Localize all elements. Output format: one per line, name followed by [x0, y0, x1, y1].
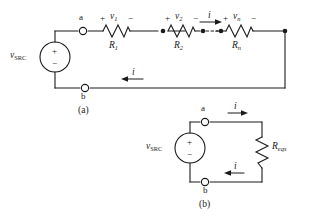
terminal-label-a-circuit-b: a	[201, 104, 205, 113]
caption-b: (b)	[199, 200, 210, 210]
current-label-b-bottom: i	[234, 162, 237, 172]
source-b-plus: +	[187, 138, 192, 147]
node-dot-ellipsis-left	[201, 29, 206, 34]
source-b-minus: −	[187, 150, 192, 159]
current-label-b-top: i	[234, 102, 237, 112]
current-arrow-b-top	[228, 110, 248, 116]
circuit-figure: vSRC + − a b + v1 − R1 + v2 − R2 + vn − …	[0, 0, 309, 223]
terminal-label-b-bottom: b	[81, 92, 86, 101]
current-arrow-a-top	[200, 19, 222, 25]
resistor-r1-symbol	[103, 25, 130, 37]
terminal-a-circuit-a	[79, 27, 86, 34]
terminal-label-a-top: a	[79, 13, 83, 22]
v2-label: v2	[175, 12, 182, 22]
rn-label: Rn	[232, 41, 241, 51]
source-a-plus: +	[52, 47, 57, 56]
vn-minus: −	[251, 14, 256, 23]
source-label-a: vSRC	[10, 51, 26, 61]
wire-a-right-bottom	[55, 31, 285, 88]
current-label-a-top: i	[208, 11, 211, 21]
v1-plus: +	[100, 14, 105, 23]
source-a-minus: −	[52, 59, 57, 68]
terminal-label-b-circuit-b: b	[203, 186, 208, 195]
vn-plus: +	[223, 14, 228, 23]
v2-plus: +	[165, 14, 170, 23]
node-dot-top-right-a	[283, 29, 288, 34]
r2-label: R2	[174, 41, 183, 51]
v1-minus: −	[128, 14, 133, 23]
source-label-b: vSRC	[146, 142, 162, 152]
circuit-svg	[0, 0, 309, 223]
current-label-a-bottom: i	[132, 68, 135, 78]
node-dot-ellipsis-right	[219, 29, 224, 34]
caption-a: (a)	[78, 106, 89, 116]
resistor-rn-symbol	[226, 25, 253, 37]
v1-label: v1	[110, 12, 117, 22]
r1-label: R1	[109, 41, 118, 51]
vn-label: vn	[233, 12, 240, 22]
reqs-label: Reqs	[272, 142, 286, 152]
resistor-reqs-symbol	[256, 137, 268, 168]
terminal-a-circuit-b	[201, 118, 208, 125]
v2-minus: −	[193, 14, 198, 23]
node-dot-r1-r2	[161, 29, 166, 34]
